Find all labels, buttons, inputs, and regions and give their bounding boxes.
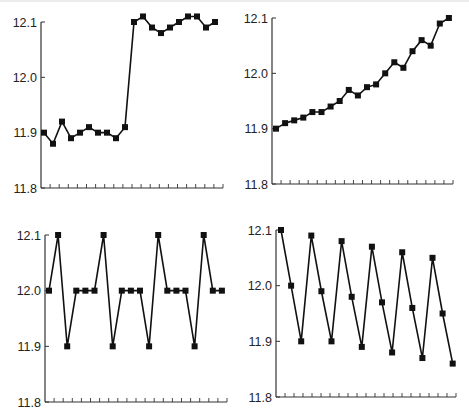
- data-point-marker: [369, 244, 375, 250]
- y-tick-label: 12.1: [248, 224, 272, 238]
- data-point-marker: [318, 288, 324, 294]
- data-point-marker: [379, 299, 385, 305]
- data-point-marker: [359, 344, 365, 350]
- data-point-marker: [288, 283, 294, 289]
- data-point-marker: [339, 238, 345, 244]
- data-line: [281, 230, 453, 364]
- data-point-marker: [308, 233, 314, 239]
- data-point-marker: [329, 338, 335, 344]
- data-point-marker: [450, 361, 456, 367]
- data-point-marker: [298, 338, 304, 344]
- data-point-marker: [278, 227, 284, 233]
- chart-bottom-right: 12.112.011.911.8: [0, 0, 469, 417]
- data-point-marker: [430, 255, 436, 261]
- data-point-marker: [440, 311, 446, 317]
- y-tick-label: 12.0: [248, 279, 272, 293]
- data-point-marker: [409, 305, 415, 311]
- data-point-marker: [419, 355, 425, 361]
- data-point-marker: [349, 294, 355, 300]
- y-tick-label: 11.8: [249, 391, 272, 405]
- data-point-marker: [399, 249, 405, 255]
- y-tick-label: 11.9: [249, 335, 272, 349]
- data-point-marker: [389, 349, 395, 355]
